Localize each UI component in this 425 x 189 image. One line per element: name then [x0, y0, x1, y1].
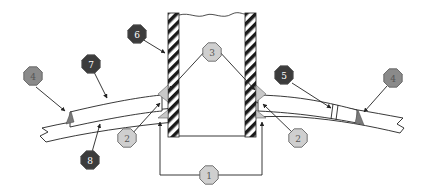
callout-number: 3 [209, 48, 215, 58]
callout-c3: 3 [203, 43, 221, 61]
callout-number: 4 [30, 72, 36, 82]
callout-c1: 1 [200, 166, 218, 184]
callout-number: 8 [87, 156, 93, 166]
callout-c7: 7 [82, 55, 100, 73]
callout-c8: 8 [81, 151, 99, 169]
leader-7 [94, 72, 107, 98]
leader-6 [142, 39, 165, 53]
pipe-interior [179, 14, 245, 139]
pipe-wall-right [245, 13, 256, 137]
leader-4-right [364, 86, 387, 112]
inner-plate-right [258, 95, 357, 123]
callout-c2-right: 2 [289, 129, 307, 147]
pipe-wall-left [168, 13, 179, 137]
leader-4-left [36, 87, 65, 111]
callout-number: 2 [295, 134, 301, 144]
callout-number: 6 [134, 30, 140, 40]
callout-c4-left: 4 [24, 67, 42, 85]
callout-number: 7 [88, 60, 94, 70]
callout-number: 2 [124, 134, 130, 144]
cross-section-diagram: 1223445678 [0, 0, 425, 189]
callout-c5: 5 [275, 66, 293, 84]
callout-number: 1 [206, 171, 212, 181]
callout-c2-left: 2 [118, 129, 136, 147]
callout-c4-right: 4 [384, 69, 402, 87]
callout-number: 5 [281, 71, 287, 81]
callout-c6: 6 [128, 25, 146, 43]
callout-number: 4 [390, 74, 396, 84]
